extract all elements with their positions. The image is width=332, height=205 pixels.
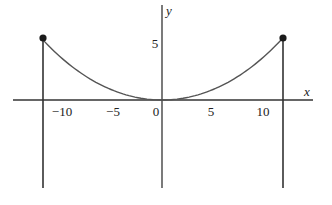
right-endpoint-marker xyxy=(279,34,286,41)
x-tick-label: 5 xyxy=(208,104,215,119)
x-axis-label: x xyxy=(303,84,310,99)
left-endpoint-marker xyxy=(39,34,46,41)
y-tick-label: 5 xyxy=(152,36,159,51)
x-tick-label: −5 xyxy=(106,104,120,119)
x-tick-label: 10 xyxy=(257,104,270,119)
x-tick-label: −10 xyxy=(52,104,72,119)
y-axis-label: y xyxy=(164,3,172,18)
x-tick-label: 0 xyxy=(153,104,160,119)
chart-canvas: −10 −5 0 5 10 5 x y xyxy=(0,0,332,205)
